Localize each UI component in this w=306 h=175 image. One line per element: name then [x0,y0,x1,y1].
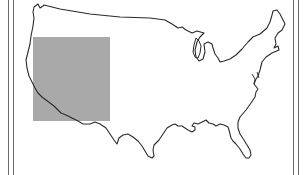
chesapeake-bay [252,72,259,84]
us-outline-map [0,0,306,175]
us-outline [26,4,285,158]
